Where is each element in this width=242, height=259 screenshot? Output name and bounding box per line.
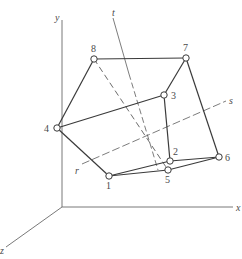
- vertex-2: [167, 158, 173, 164]
- vertex-3: [161, 92, 167, 98]
- line-s: [82, 101, 226, 164]
- vertex-1: [106, 173, 112, 179]
- vertex-6: [216, 154, 222, 160]
- vertex-3-label: 3: [171, 90, 176, 101]
- vertex-8: [91, 56, 97, 62]
- vertex-7: [183, 55, 189, 61]
- vertex-6-label: 6: [225, 152, 230, 163]
- edge-7-6: [186, 58, 219, 157]
- hidden-edge-8-5: [94, 59, 168, 170]
- line-t-visible: [113, 18, 129, 74]
- line-r-label: r: [75, 165, 79, 176]
- edge-4-8: [57, 59, 94, 128]
- polyhedron-diagram: xyztsr12345678: [0, 0, 242, 259]
- edge-4-1: [57, 128, 109, 176]
- edge-4-3: [57, 95, 164, 128]
- edge-8-7: [94, 58, 186, 59]
- vertices: [54, 55, 222, 179]
- vertex-5: [165, 167, 171, 173]
- visible-edges: [57, 58, 219, 176]
- vertex-1-label: 1: [106, 180, 111, 191]
- line-s-label: s: [229, 95, 233, 106]
- line-t-label: t: [112, 7, 115, 18]
- vertex-4: [54, 125, 60, 131]
- vertex-8-label: 8: [91, 43, 96, 54]
- z-axis: [6, 207, 62, 247]
- reference-lines: [82, 18, 226, 170]
- z-axis-label: z: [0, 245, 4, 256]
- vertex-2-label: 2: [173, 146, 178, 157]
- coordinate-axes: [6, 20, 233, 247]
- vertex-4-label: 4: [44, 123, 49, 134]
- vertex-7-label: 7: [183, 42, 188, 53]
- x-axis-label: x: [235, 202, 241, 213]
- y-axis-label: y: [54, 12, 60, 23]
- vertex-5-label: 5: [165, 174, 170, 185]
- hidden-edges: [94, 59, 168, 170]
- line-t-hidden: [129, 74, 158, 170]
- edge-1-5: [109, 170, 168, 176]
- edge-1-2: [109, 161, 170, 176]
